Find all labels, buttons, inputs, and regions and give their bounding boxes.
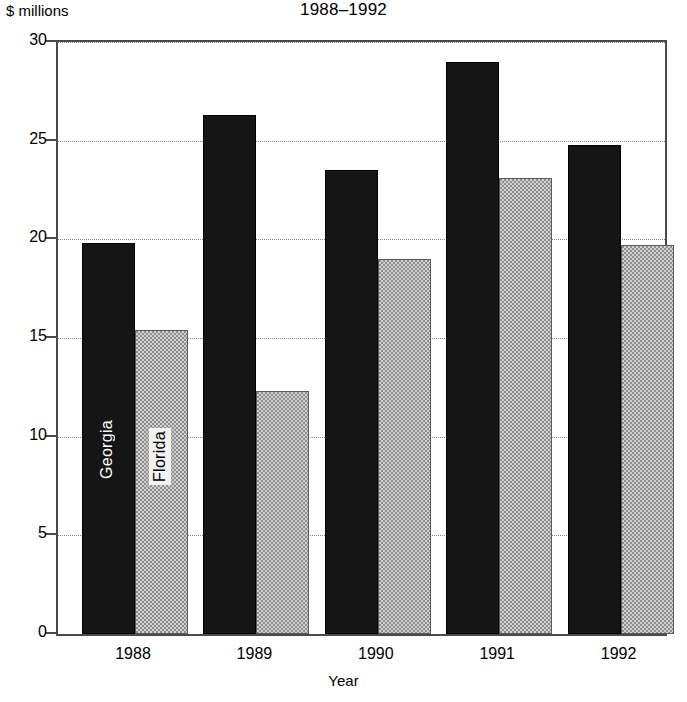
x-axis-tick-label-1992: 1992 <box>601 645 637 663</box>
bar-chart: $ millions 1988–1992 051015202530 198819… <box>0 0 687 702</box>
plot-inner <box>58 42 665 634</box>
x-axis-tick-label-1988: 1988 <box>115 645 151 663</box>
x-axis-tick-label-1989: 1989 <box>237 645 273 663</box>
bar-georgia-1992 <box>568 145 621 634</box>
y-axis-tick-label: 0 <box>38 623 47 641</box>
bar-georgia-1990 <box>325 170 378 634</box>
series-label-florida: Florida <box>149 428 171 485</box>
plot-area <box>56 40 667 636</box>
bar-florida-1991 <box>499 178 552 634</box>
y-axis-tick-label: 30 <box>29 31 47 49</box>
x-axis-title: Year <box>0 672 687 689</box>
y-axis-tick-label: 5 <box>38 524 47 542</box>
x-axis-tick-label-1990: 1990 <box>358 645 394 663</box>
bar-georgia-1989 <box>203 115 256 634</box>
y-axis-tick-label: 25 <box>29 130 47 148</box>
y-axis-tick-label: 20 <box>29 228 47 246</box>
gridline <box>58 141 665 142</box>
bar-georgia-1991 <box>446 62 499 634</box>
y-axis-tick-label: 10 <box>29 426 47 444</box>
series-label-georgia: Georgia <box>98 420 116 479</box>
bar-florida-1989 <box>256 391 309 634</box>
gridline <box>58 42 665 43</box>
x-axis-tick-label-1991: 1991 <box>479 645 515 663</box>
chart-title: 1988–1992 <box>0 0 687 20</box>
bar-florida-1992 <box>621 245 674 634</box>
y-axis-tick-label: 15 <box>29 327 47 345</box>
bar-florida-1990 <box>378 259 431 634</box>
